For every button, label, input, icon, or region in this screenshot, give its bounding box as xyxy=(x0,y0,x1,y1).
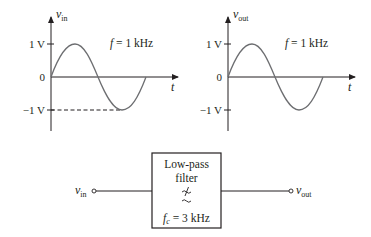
input-frequency-label: f = 1 kHz xyxy=(110,37,153,50)
output-graph: vout t 1 V 0 −1 V f = 1 kHz xyxy=(200,7,355,131)
input-terminal-label: vin xyxy=(75,183,87,199)
input-graph: vin t 1 V 0 −1 V f = 1 kHz xyxy=(23,7,178,131)
output-frequency-label: f = 1 kHz xyxy=(285,37,328,50)
output-t-label: t xyxy=(348,80,352,94)
output-tick-neg-label: −1 V xyxy=(200,104,222,116)
filter-cutoff-label: fc = 3 kHz xyxy=(163,212,210,226)
filter-block-diagram: vin Low-pass filter fc = 3 kHz vout xyxy=(75,153,312,228)
output-tick-zero-label: 0 xyxy=(217,71,223,83)
output-tick-pos-label: 1 V xyxy=(206,38,222,50)
output-y-label: vout xyxy=(233,7,249,23)
input-tick-neg-label: −1 V xyxy=(23,104,45,116)
output-terminal xyxy=(289,189,293,193)
filter-title-line2: filter xyxy=(175,172,198,184)
diagram-canvas: vin t 1 V 0 −1 V f = 1 kHz vout t 1 V 0 … xyxy=(0,0,371,237)
output-terminal-label: vout xyxy=(296,183,312,199)
input-tick-zero-label: 0 xyxy=(40,71,46,83)
input-t-label: t xyxy=(171,80,175,94)
filter-title-line1: Low-pass xyxy=(164,158,209,171)
input-tick-pos-label: 1 V xyxy=(29,38,45,50)
input-terminal xyxy=(92,189,96,193)
input-y-label: vin xyxy=(56,7,68,23)
